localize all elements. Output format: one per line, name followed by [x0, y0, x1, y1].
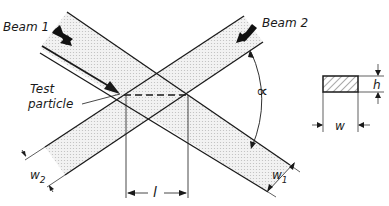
test-particle-label-line2: particle [27, 97, 73, 111]
w2-arrow-upper-icon [21, 151, 26, 157]
length-arrow-right-icon [179, 190, 187, 196]
w-arrow-right-icon [358, 122, 364, 128]
w-label: w [335, 119, 345, 133]
beam1-ext-lower [268, 192, 276, 197]
beam2-ext-lower [47, 175, 65, 187]
w2-label-sub: 2 [40, 175, 46, 185]
w1-label-main: w [272, 168, 282, 182]
w-arrow-left-icon [317, 122, 323, 128]
h-arrow-bottom-icon [375, 92, 381, 98]
w1-label-sub: 1 [282, 175, 288, 185]
length-label: l [153, 184, 157, 200]
beam1-label: Beam 1 [3, 20, 49, 34]
beam-cross-section [323, 76, 358, 92]
test-particle-label-line1: Test [30, 82, 55, 96]
beam2-ext-upper [25, 147, 45, 160]
h-label: h [373, 78, 381, 92]
w2-label: w2 [30, 168, 46, 185]
length-arrow-left-icon [127, 190, 135, 196]
angle-label: ∝ [256, 81, 268, 101]
h-arrow-top-icon [375, 70, 381, 76]
w2-label-main: w [30, 168, 40, 182]
beam2-label: Beam 2 [262, 16, 308, 30]
w1-arrow-upper-icon [289, 162, 295, 170]
w2-arrow-lower-icon [49, 185, 54, 191]
crossing-beams-diagram: l Test particle Beam 1 Beam 2 ∝ w2 w1 h … [0, 0, 389, 206]
